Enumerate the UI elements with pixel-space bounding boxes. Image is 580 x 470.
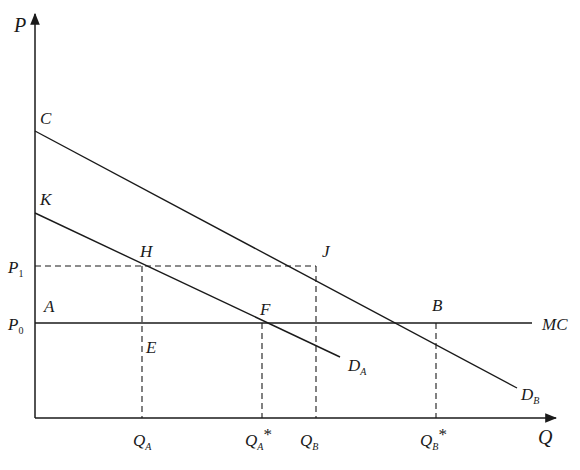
qa-star-label: QA* — [245, 425, 272, 452]
demand-curve-da — [35, 213, 340, 357]
y-axis-label: P — [13, 14, 26, 36]
db-label: DB — [520, 385, 539, 406]
p1-label: P1 — [7, 258, 23, 279]
mc-label: MC — [541, 315, 568, 334]
point-c-label: C — [40, 109, 52, 128]
qb-label: QB — [300, 431, 318, 452]
point-f-label: F — [259, 300, 271, 319]
point-e-label: E — [145, 338, 157, 357]
da-label: DA — [347, 356, 367, 377]
economics-diagram: P Q C K H J A F E B P1 P0 MC DA DB QA QA… — [0, 0, 580, 470]
point-h-label: H — [139, 242, 154, 261]
point-b-label: B — [432, 296, 443, 315]
demand-curve-db — [35, 131, 517, 388]
point-k-label: K — [39, 190, 53, 209]
qb-star-label: QB* — [420, 425, 447, 452]
point-a-label: A — [43, 297, 55, 316]
qa-label: QA — [133, 431, 152, 452]
x-axis-label: Q — [538, 426, 553, 448]
p0-label: P0 — [7, 315, 23, 336]
point-j-label: J — [322, 242, 331, 261]
